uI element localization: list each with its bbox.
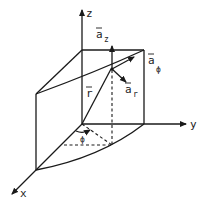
- r-label: r: [86, 87, 93, 100]
- cylindrical-coordinates-diagram: z y x a z a ϕ a r r ϕ: [0, 0, 208, 206]
- svg-text:r: r: [86, 87, 93, 100]
- svg-text:z: z: [104, 35, 109, 44]
- a-z-label: a z: [96, 28, 109, 44]
- a-phi-label: a ϕ: [148, 54, 161, 74]
- x-axis-label: x: [20, 187, 27, 200]
- phi-angle-arc: [76, 130, 90, 132]
- svg-text:ϕ: ϕ: [156, 65, 161, 74]
- phi-angle-label: ϕ: [80, 135, 85, 144]
- x-axis: [12, 124, 82, 194]
- svg-text:a: a: [125, 83, 132, 96]
- unit-vector-a-r: [112, 69, 126, 82]
- a-r-label: a r: [125, 83, 138, 99]
- z-axis-label: z: [86, 7, 93, 20]
- svg-text:a: a: [96, 28, 103, 41]
- point-p: [110, 67, 113, 70]
- y-axis-label: y: [190, 118, 197, 131]
- svg-text:r: r: [133, 90, 138, 99]
- svg-text:a: a: [148, 54, 155, 67]
